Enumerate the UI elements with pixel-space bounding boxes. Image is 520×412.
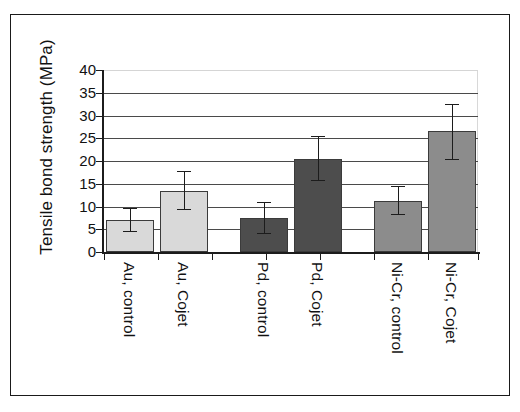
x-axis-tick	[320, 254, 321, 260]
gridline	[104, 161, 478, 162]
error-bar-cap-bottom	[391, 214, 405, 215]
x-axis-category-label: Pd, control	[254, 262, 272, 392]
error-bar	[106, 208, 154, 233]
gridline	[104, 116, 478, 117]
error-bar-cap-top	[177, 171, 191, 172]
y-axis-tick	[96, 116, 103, 117]
gridline	[104, 70, 478, 71]
gridline	[104, 138, 478, 139]
x-axis-tick	[212, 254, 213, 260]
y-axis-title: Tensile bond strength (MPa)	[37, 22, 57, 272]
error-bar-cap-top	[257, 202, 271, 203]
y-axis-tick-labels: 0510152025303540	[56, 0, 96, 412]
y-axis-tick-label: 5	[62, 221, 96, 236]
y-axis-tick	[96, 252, 103, 253]
error-bar	[374, 186, 422, 215]
x-axis-category-label: Ni-Cr, control	[388, 262, 406, 392]
error-bar-cap-bottom	[257, 233, 271, 234]
y-axis-tick	[96, 70, 103, 71]
error-bar-cap-top	[391, 186, 405, 187]
gridline	[104, 93, 478, 94]
y-axis-tick-label: 0	[62, 244, 96, 259]
error-bar-cap-bottom	[177, 209, 191, 210]
error-bar-cap-top	[311, 136, 325, 137]
x-axis-tick	[478, 254, 479, 260]
x-axis-category-label: Ni-Cr, Cojet	[442, 262, 460, 392]
x-axis-category-label: Au, Cojet	[174, 262, 192, 392]
y-axis-tick-label: 35	[62, 85, 96, 100]
error-bar	[160, 171, 208, 209]
y-axis-tick-label: 15	[62, 176, 96, 191]
y-axis-tick-label: 40	[62, 62, 96, 77]
y-axis-tick-label: 25	[62, 130, 96, 145]
y-axis-tick-label: 10	[62, 199, 96, 214]
x-axis-category-label: Pd, Cojet	[308, 262, 326, 392]
x-axis-tick	[374, 254, 375, 260]
y-axis-tick	[96, 93, 103, 94]
error-bar-cap-bottom	[311, 180, 325, 181]
error-bar	[240, 202, 288, 234]
error-bar	[294, 136, 342, 182]
x-axis-tick	[428, 254, 429, 260]
x-axis-tick	[158, 254, 159, 260]
y-axis-tick	[96, 161, 103, 162]
x-axis-tick	[104, 254, 105, 260]
error-bar-line	[452, 104, 453, 160]
y-axis-tick	[96, 138, 103, 139]
error-bar-line	[184, 171, 185, 209]
y-axis-tick-label: 30	[62, 108, 96, 123]
error-bar-line	[130, 208, 131, 233]
y-axis-tick-label: 20	[62, 153, 96, 168]
y-axis-tick	[96, 207, 103, 208]
y-axis-tick	[96, 184, 103, 185]
x-axis-category-label: Au, control	[120, 262, 138, 392]
figure-root: Tensile bond strength (MPa) 051015202530…	[0, 0, 520, 412]
x-axis-tick	[266, 254, 267, 260]
error-bar-line	[398, 186, 399, 215]
error-bar-cap-top	[445, 104, 459, 105]
error-bar-line	[318, 136, 319, 182]
error-bar-cap-top	[123, 208, 137, 209]
y-axis-tick	[96, 229, 103, 230]
error-bar-cap-bottom	[123, 231, 137, 232]
error-bar-line	[264, 202, 265, 234]
error-bar	[428, 104, 476, 160]
error-bar-cap-bottom	[445, 159, 459, 160]
